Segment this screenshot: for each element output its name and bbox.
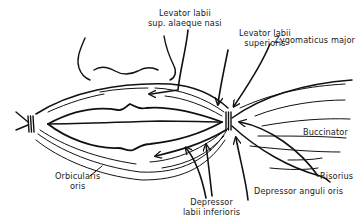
- left-modiolus: [16, 112, 34, 132]
- label-buccinator: Buccinator: [303, 128, 348, 138]
- label-orbicularis-oris: Orbicularis oris: [55, 172, 100, 191]
- label-depressor-labii-inferioris: Depressor labii inferioris: [183, 198, 240, 217]
- muscle-action-arrows: [90, 30, 318, 200]
- label-levator-labii-sup-alaeque-nasi: Levator labii sup. alaeque nasi: [148, 9, 222, 28]
- right-modiolus: [226, 112, 231, 130]
- label-risorius: Risorius: [320, 172, 353, 182]
- label-zygomaticus-major: Zygomaticus major: [274, 36, 355, 46]
- nose-outline: [78, 36, 175, 80]
- label-depressor-anguli-oris: Depressor anguli oris: [254, 187, 343, 197]
